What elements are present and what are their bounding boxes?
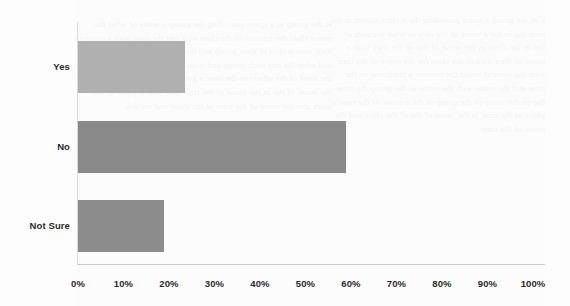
x-tick-label-100: 100% bbox=[521, 278, 546, 289]
bar-not-sure bbox=[78, 200, 164, 252]
category-label-wrapper: No bbox=[0, 141, 72, 152]
x-tick-label-30: 30% bbox=[205, 278, 224, 289]
x-tick-label-10: 10% bbox=[114, 278, 133, 289]
category-label-wrapper: Not Sure bbox=[0, 220, 72, 231]
x-tick-label-60: 60% bbox=[341, 278, 360, 289]
category-label-not-sure: Not Sure bbox=[0, 220, 70, 231]
bar-chart: et the group in a space providing the gr… bbox=[0, 0, 570, 306]
x-tick-label-90: 90% bbox=[478, 278, 497, 289]
category-label-no: No bbox=[0, 141, 70, 152]
category-label-yes: Yes bbox=[0, 61, 70, 72]
category-label-wrapper: Yes bbox=[0, 61, 72, 72]
x-tick-label-20: 20% bbox=[159, 278, 178, 289]
x-tick-label-70: 70% bbox=[387, 278, 406, 289]
x-tick-label-80: 80% bbox=[432, 278, 451, 289]
x-tick-label-50: 50% bbox=[296, 278, 315, 289]
bar-yes bbox=[78, 41, 185, 93]
x-tick-label-40: 40% bbox=[250, 278, 269, 289]
x-tick-label-0: 0% bbox=[71, 278, 85, 289]
bar-no bbox=[78, 121, 346, 173]
bars-container bbox=[0, 0, 570, 306]
